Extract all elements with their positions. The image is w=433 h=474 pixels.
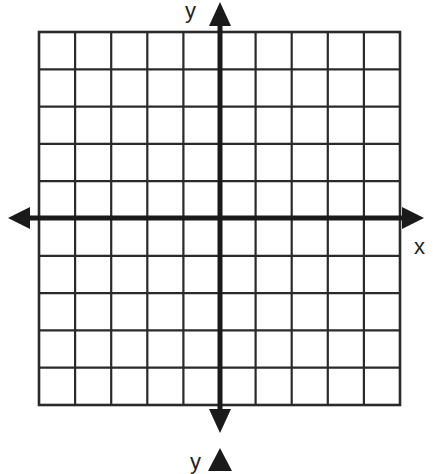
y-axis-label-bottom: y (190, 451, 201, 473)
y-axis-down-arrow-icon (209, 409, 231, 433)
stray-up-arrow-icon (208, 448, 232, 471)
x-axis-label: x (414, 236, 425, 258)
y-axis-label-top: y (185, 0, 196, 22)
x-axis-left-arrow-icon (8, 207, 30, 229)
x-axis-right-arrow-icon (402, 207, 424, 229)
axes (8, 2, 424, 471)
y-axis-up-arrow-icon (209, 2, 231, 26)
